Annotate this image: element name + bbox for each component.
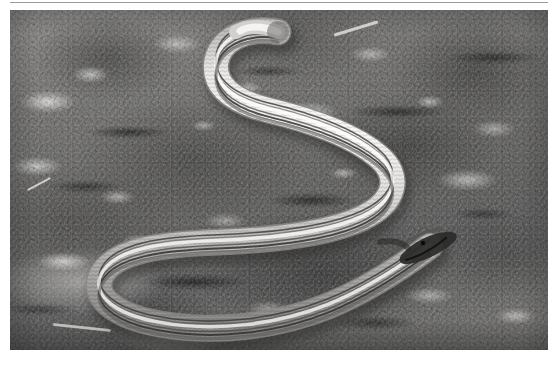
lizard-eye	[421, 241, 425, 245]
horizontal-rule	[10, 2, 548, 3]
legless-lizard	[10, 10, 548, 350]
photograph	[10, 10, 548, 350]
page-root	[0, 0, 559, 365]
lizard-scale-texture	[99, 31, 430, 329]
